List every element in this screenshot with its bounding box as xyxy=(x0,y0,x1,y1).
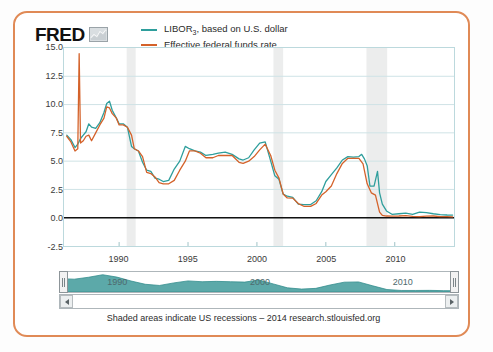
navigator-tick-label: 1990 xyxy=(107,277,127,287)
range-navigator[interactable]: 199020002010 xyxy=(59,271,459,293)
x-tick-label: 1990 xyxy=(108,254,128,264)
screenshot-root: FRED LIBOR3, based on U.S. dollar Effect… xyxy=(0,0,493,352)
navigator-tick-label: 2000 xyxy=(250,277,270,287)
navigator-right-handle[interactable] xyxy=(450,271,459,293)
triangle-left-icon xyxy=(65,299,69,305)
navigator-tick-label: 2010 xyxy=(393,277,413,287)
scroll-left-button[interactable] xyxy=(60,295,73,308)
triangle-right-icon xyxy=(450,299,454,305)
series-plot xyxy=(64,48,454,246)
x-tick-label: 1995 xyxy=(178,254,198,264)
scroll-right-button[interactable] xyxy=(445,295,458,308)
fred-chart-card: FRED LIBOR3, based on U.S. dollar Effect… xyxy=(13,11,470,337)
x-tick-label: 2005 xyxy=(316,254,336,264)
chart-footnote: Shaded areas indicate US recessions – 20… xyxy=(15,313,472,323)
x-tick-label: 2000 xyxy=(247,254,267,264)
plot-canvas[interactable] xyxy=(63,47,455,247)
x-tick-label: 2010 xyxy=(385,254,405,264)
horizontal-scrollbar[interactable] xyxy=(59,294,459,309)
navigator-left-handle[interactable] xyxy=(59,271,68,293)
scrollbar-track[interactable] xyxy=(73,295,445,308)
